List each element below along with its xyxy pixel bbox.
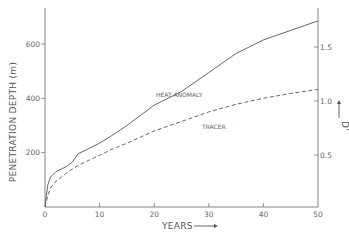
x-tick-label: 20	[149, 210, 159, 219]
y-tick-label: 200	[26, 148, 41, 157]
x-tick-label: 40	[259, 210, 269, 219]
y2-tick-label: 1.5	[320, 43, 332, 52]
x-tick-label: 10	[95, 210, 105, 219]
heat-anomaly-label: HEAT ANOMALY	[156, 91, 203, 98]
x-axis-title: YEARS	[161, 221, 193, 231]
y2-axis-arrow-icon	[337, 100, 341, 118]
x-tick-label: 30	[204, 210, 214, 219]
chart: 010203040502004006000.51.01.5 HEAT ANOMA…	[0, 0, 349, 238]
tracer-label: TRACER	[201, 123, 226, 130]
y2-tick-label: 1.0	[320, 97, 332, 106]
y-axis-title: PENETRATION DEPTH (m)	[8, 62, 18, 182]
y-tick-label: 400	[26, 94, 41, 103]
x-tick-label: 50	[313, 210, 323, 219]
x-axis-arrow-icon	[194, 224, 218, 228]
y2-axis-title: D'	[340, 121, 349, 131]
heat-anomaly-curve	[45, 21, 318, 207]
y2-tick-label: 0.5	[320, 151, 332, 160]
tracer-curve	[45, 89, 318, 207]
axes: 010203040502004006000.51.01.5	[26, 8, 332, 219]
y-tick-label: 600	[26, 40, 41, 49]
curves	[45, 21, 318, 207]
x-tick-label: 0	[43, 210, 48, 219]
